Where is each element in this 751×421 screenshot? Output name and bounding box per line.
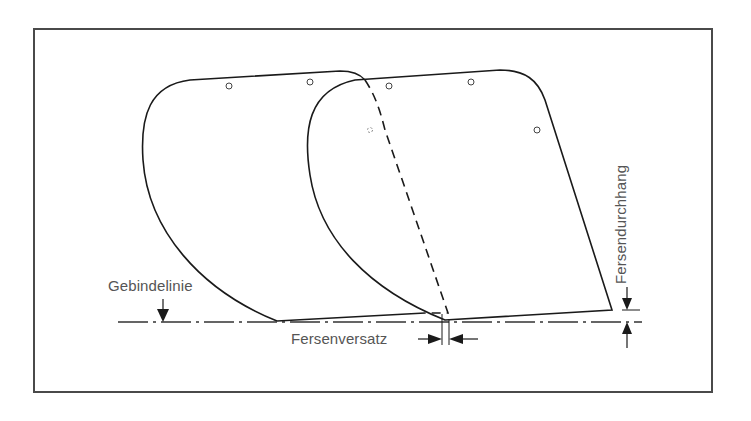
gebindelinie-arrow-icon (157, 299, 169, 322)
gebindelinie-label: Gebindelinie (108, 277, 193, 294)
nail-hole-icon (386, 83, 392, 89)
nail-hole-icon (534, 127, 540, 133)
nail-hole-hidden-icon (368, 128, 373, 133)
nail-hole-icon (226, 83, 232, 89)
nail-hole-icon (468, 79, 474, 85)
fersenversatz-label: Fersenversatz (291, 330, 387, 347)
left-shingle-bottom (277, 313, 425, 321)
diagram-canvas (0, 0, 751, 421)
left-shingle-hidden-edge (365, 80, 448, 313)
fersendurchhang-dimension (622, 287, 640, 348)
fersendurchhang-label: Fersendurchhang (612, 165, 629, 284)
nail-hole-icon (307, 79, 313, 85)
right-shingle-outline (307, 70, 612, 320)
